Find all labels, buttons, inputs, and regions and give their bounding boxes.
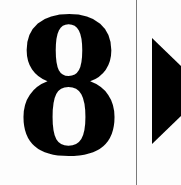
- sign-panel: 8: [0, 0, 181, 185]
- divider: [136, 0, 137, 185]
- play-arrow-right-icon: [152, 38, 181, 144]
- digit-label: 8: [14, 0, 124, 178]
